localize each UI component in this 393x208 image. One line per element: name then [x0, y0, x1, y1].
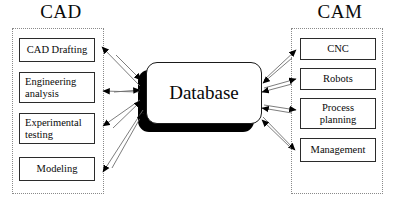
arrow-db-to-experimental-testing: [103, 100, 140, 126]
cad-item-cad-drafting[interactable]: CAD Drafting: [19, 38, 95, 62]
cad-item-experimental-testing-label: Experimental testing: [22, 117, 92, 141]
arrow-cad-drafting-to-db: [116, 55, 141, 80]
database-node-label: Database: [169, 82, 239, 104]
arrow-db-to-cad-drafting: [102, 47, 140, 86]
cam-item-cnc[interactable]: CNC: [300, 38, 376, 60]
cam-item-process-planning-label: Process planning: [303, 102, 373, 126]
cad-item-engineering-analysis[interactable]: Engineering analysis: [19, 72, 95, 103]
cad-item-modeling-label: Modeling: [37, 163, 78, 175]
cam-item-robots[interactable]: Robots: [300, 68, 376, 90]
cam-item-management[interactable]: Management: [300, 138, 376, 162]
arrow-experimental-testing-to-db: [113, 101, 141, 128]
arrow-robots-to-db: [262, 84, 292, 92]
arrow-db-to-modeling: [103, 110, 143, 172]
arrow-process-planning-to-db: [262, 108, 292, 113]
cad-item-experimental-testing[interactable]: Experimental testing: [19, 113, 95, 144]
cam-group-title: CAM: [295, 1, 385, 23]
cad-item-cad-drafting-label: CAD Drafting: [27, 44, 87, 56]
cam-item-robots-label: Robots: [323, 73, 353, 85]
cam-item-process-planning[interactable]: Process planning: [300, 98, 376, 129]
cad-item-engineering-analysis-label: Engineering analysis: [22, 76, 92, 100]
cad-group-title: CAD: [16, 1, 106, 23]
arrow-cnc-to-db: [263, 58, 292, 83]
arrow-db-to-engineering-analysis: [103, 91, 139, 92]
arrow-management-to-db: [262, 120, 291, 148]
cam-item-cnc-label: CNC: [327, 43, 349, 55]
cad-cam-database-diagram: CAD CAM CAD Drafting Engineering analysi…: [0, 0, 393, 208]
cad-item-modeling[interactable]: Modeling: [19, 157, 95, 181]
database-node[interactable]: Database: [146, 62, 262, 124]
arrow-engineering-analysis-to-db: [114, 90, 140, 92]
cam-item-management-label: Management: [311, 144, 366, 156]
